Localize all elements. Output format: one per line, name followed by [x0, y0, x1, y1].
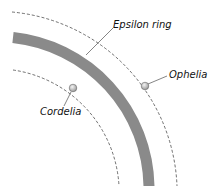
epsilon-ring-diagram: Epsilon ring Ophelia Cordelia [0, 0, 211, 186]
ring-diagram-graphic [0, 0, 211, 186]
epsilon-ring-label: Epsilon ring [113, 19, 172, 30]
ophelia-leader-line [148, 76, 167, 84]
ophelia-label: Ophelia [169, 69, 207, 80]
cordelia-label: Cordelia [40, 106, 81, 117]
ophelia-moon [141, 82, 149, 90]
cordelia-leader-line [64, 92, 71, 106]
cordelia-moon [69, 84, 77, 92]
